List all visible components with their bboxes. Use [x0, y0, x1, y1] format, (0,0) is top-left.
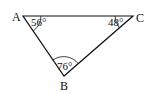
vertex-label-a: A [12, 10, 21, 24]
angle-label-a: 56° [31, 16, 46, 28]
triangle-diagram: A C B 56° 48° 76° [0, 0, 147, 93]
angle-label-c: 48° [108, 16, 123, 28]
vertex-label-b: B [60, 79, 68, 93]
vertex-label-c: C [136, 11, 144, 25]
angle-label-b: 76° [57, 60, 72, 72]
